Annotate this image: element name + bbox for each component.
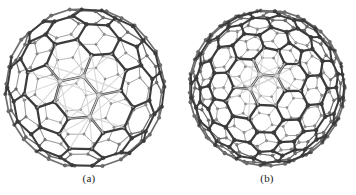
- molecular-bond: [102, 159, 120, 166]
- molecular-bond: [224, 77, 229, 88]
- molecular-bond: [269, 107, 276, 115]
- molecular-bond: [210, 47, 219, 61]
- molecular-bond: [126, 53, 139, 61]
- molecular-bond: [58, 57, 73, 60]
- molecular-bond: [257, 141, 266, 146]
- molecular-bond: [77, 24, 86, 39]
- molecular-bond: [141, 65, 152, 79]
- molecular-bond: [240, 96, 246, 104]
- molecular-bond: [149, 79, 152, 101]
- molecular-bond: [233, 34, 245, 46]
- molecular-bond: [46, 21, 55, 34]
- molecular-bond: [37, 50, 50, 53]
- molecular-bond: [96, 68, 105, 79]
- molecular-bond: [321, 44, 326, 55]
- molecular-bond: [216, 109, 217, 120]
- panel-a: (a): [0, 0, 178, 195]
- molecular-bond: [249, 105, 258, 119]
- molecular-bond: [112, 39, 119, 53]
- molecular-bond: [290, 69, 295, 79]
- molecular-bond: [82, 9, 102, 10]
- molecular-bond: [276, 91, 285, 106]
- molecular-bond: [234, 140, 249, 143]
- molecular-bond: [24, 94, 37, 107]
- molecular-bond: [330, 80, 331, 92]
- molecular-bond: [30, 54, 37, 68]
- molecular-bond: [246, 36, 255, 41]
- molecular-bond: [24, 100, 26, 117]
- molecular-bond: [106, 104, 111, 119]
- molecular-bond: [263, 41, 273, 42]
- molecular-bond: [296, 43, 307, 46]
- molecule-svg-b: [178, 0, 356, 172]
- molecular-bond: [45, 140, 61, 144]
- hub-vertex: [248, 86, 253, 91]
- molecular-bond: [306, 63, 309, 73]
- molecular-bond: [59, 134, 69, 149]
- molecular-bond: [301, 76, 308, 91]
- molecular-bond: [14, 101, 18, 121]
- molecular-bond: [320, 75, 327, 89]
- molecular-bond: [260, 154, 272, 156]
- panel-b: (b): [178, 0, 356, 195]
- molecular-bond: [128, 78, 140, 84]
- molecular-bond: [16, 72, 19, 89]
- molecular-bond: [244, 128, 253, 133]
- molecular-bond: [109, 140, 120, 145]
- molecular-bond: [237, 59, 253, 60]
- molecular-bond: [202, 110, 209, 120]
- molecular-bond: [259, 113, 269, 115]
- molecular-bond: [247, 163, 261, 165]
- molecular-bond: [241, 50, 247, 58]
- molecular-bond: [51, 10, 70, 16]
- molecular-bond: [264, 125, 272, 132]
- molecular-bond: [112, 54, 126, 71]
- molecular-bond: [88, 154, 99, 160]
- molecular-bond: [291, 51, 296, 61]
- molecular-bond: [233, 116, 249, 118]
- molecular-bond: [55, 39, 77, 44]
- molecule-svg-a: [0, 0, 178, 172]
- molecular-bond: [124, 107, 133, 128]
- molecular-bond: [253, 18, 268, 19]
- molecular-bond: [295, 79, 304, 80]
- radial-hub-group: [24, 39, 133, 149]
- molecular-bond: [92, 133, 103, 149]
- molecular-bond: [271, 164, 285, 166]
- molecular-bond: [267, 141, 278, 143]
- molecular-bond: [103, 152, 121, 158]
- molecular-bond: [149, 100, 154, 114]
- molecular-bond: [340, 84, 341, 97]
- panel-label-a: (a): [0, 170, 178, 186]
- molecular-bond: [5, 94, 8, 111]
- molecule-model-a: [0, 0, 178, 172]
- molecular-bond: [261, 11, 275, 12]
- panel-label-b: (b): [178, 170, 356, 186]
- molecular-bond: [45, 104, 47, 118]
- molecular-bond: [84, 134, 94, 144]
- molecular-bond: [269, 115, 272, 125]
- molecular-bond: [96, 34, 104, 44]
- molecular-bond: [264, 161, 279, 163]
- molecular-bond: [146, 105, 151, 116]
- molecular-bond: [249, 119, 258, 132]
- molecular-bond: [35, 43, 37, 54]
- molecular-bond: [227, 59, 237, 73]
- figure-container: (a) (b): [0, 0, 356, 195]
- molecular-bond: [287, 108, 291, 118]
- hub-vertex: [87, 115, 92, 120]
- molecular-bond: [84, 121, 90, 134]
- molecular-bond: [24, 72, 28, 94]
- molecular-bond: [117, 60, 118, 74]
- molecular-bond: [273, 41, 279, 49]
- molecular-bond: [92, 54, 113, 55]
- molecular-bond: [317, 77, 318, 88]
- molecular-bond: [271, 27, 286, 32]
- molecular-bond: [287, 98, 294, 107]
- hub-spoke: [249, 89, 250, 119]
- molecular-bond: [330, 100, 334, 112]
- molecular-bond: [71, 24, 79, 35]
- molecular-bond: [109, 127, 114, 139]
- molecular-bond: [234, 126, 244, 132]
- molecular-bond: [244, 34, 259, 35]
